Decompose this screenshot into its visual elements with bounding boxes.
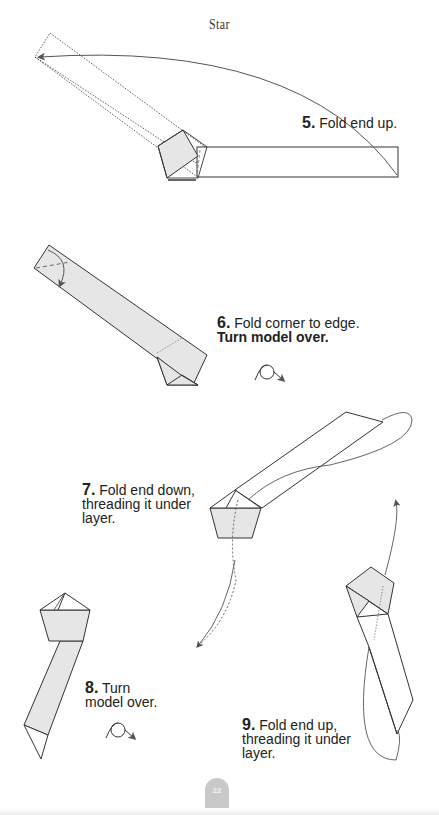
- turn-over-icon: [255, 365, 283, 380]
- step-7-line-3: layer.: [82, 511, 195, 525]
- step-9-diagram: [346, 502, 413, 760]
- step-6-extra: Turn model over.: [217, 330, 360, 344]
- page-bottom-edge: [0, 808, 439, 815]
- step-8-diagram: [24, 593, 90, 759]
- step-9-line-3: layer.: [242, 746, 351, 760]
- turn-over-icon: [106, 723, 134, 738]
- step-8-label: 8. Turn model over.: [85, 681, 157, 709]
- step-9-line-2: threading it under: [242, 732, 351, 746]
- step-8-line-2: model over.: [85, 695, 157, 709]
- step-7-line-2: threading it under: [82, 497, 195, 511]
- step-5-label: 5. Fold end up.: [302, 116, 397, 130]
- step-5-number: 5.: [302, 114, 315, 131]
- step-7-label: 7. Fold end down, threading it under lay…: [82, 483, 195, 525]
- step-5-diagram: [35, 33, 398, 180]
- step-6-diagram: [34, 245, 207, 385]
- step-6-label: 6. Fold corner to edge. Turn model over.: [217, 316, 360, 344]
- step-9-label: 9. Fold end up, threading it under layer…: [242, 718, 351, 760]
- step-5-text: Fold end up.: [319, 115, 397, 131]
